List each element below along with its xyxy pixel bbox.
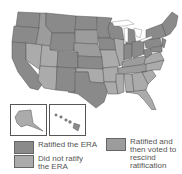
legend-label: Did not ratify the ERA (38, 155, 86, 171)
lake-superior (112, 20, 134, 26)
legend-item-ratified: Ratified the ERA (14, 141, 97, 154)
hawaii-inset (49, 104, 86, 136)
state-co (57, 51, 78, 68)
state-sd (75, 30, 98, 44)
lake-michigan (124, 28, 128, 42)
state-nd (75, 16, 97, 30)
legend-label: Ratified the ERA (38, 141, 97, 149)
state-wy (50, 33, 75, 51)
state-ks (78, 56, 103, 69)
alaska-inset (10, 104, 47, 136)
state-mt (46, 13, 76, 33)
state-nj (162, 38, 166, 48)
legend-item-rescinded: Ratified and then voted to rescind ratif… (106, 138, 182, 170)
legend-swatch (14, 141, 34, 154)
state-nm (56, 67, 76, 92)
state-ne (74, 43, 102, 57)
state-wa (16, 12, 40, 28)
state-or (12, 26, 39, 44)
state-hi-island (55, 114, 57, 116)
state-oh (132, 40, 144, 58)
legend-item-did-not-ratify: Did not ratify the ERA (14, 155, 94, 171)
legend-swatch (106, 138, 126, 151)
legend-swatch (14, 155, 34, 168)
state-fl (126, 90, 156, 110)
lake-huron (134, 28, 142, 38)
state-ak (15, 110, 43, 131)
legend-label: Ratified and then voted to rescind ratif… (130, 138, 182, 170)
us-map (0, 0, 182, 110)
state-in (124, 44, 132, 60)
